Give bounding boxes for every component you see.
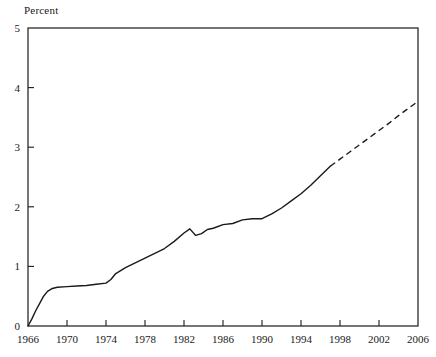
- y-tick-label: 4: [15, 82, 21, 94]
- x-tick-label: 1990: [251, 333, 274, 345]
- chart-page: Percent 012345 1966197019741978198219861…: [0, 0, 436, 357]
- y-tick-label: 1: [15, 260, 21, 272]
- series-group: [28, 101, 418, 326]
- x-tick-label: 1994: [290, 333, 313, 345]
- x-tick-label: 1970: [56, 333, 79, 345]
- x-tick-label: 1998: [329, 333, 352, 345]
- y-tick-label: 0: [15, 320, 21, 332]
- x-tick-label: 2006: [407, 333, 430, 345]
- line-chart: 012345 196619701974197819821986199019941…: [0, 0, 436, 357]
- x-axis-ticks: 1966197019741978198219861990199419982002…: [17, 320, 430, 345]
- y-tick-label: 3: [15, 141, 21, 153]
- x-tick-label: 1978: [134, 333, 157, 345]
- series-line-actual: [28, 166, 330, 326]
- x-tick-label: 1974: [95, 333, 118, 345]
- y-axis-ticks: 012345: [15, 22, 35, 332]
- x-tick-label: 2002: [368, 333, 390, 345]
- y-tick-label: 2: [15, 201, 21, 213]
- series-line-projected: [330, 101, 418, 166]
- x-tick-label: 1966: [17, 333, 40, 345]
- x-tick-label: 1982: [173, 333, 195, 345]
- y-tick-label: 5: [15, 22, 21, 34]
- x-tick-label: 1986: [212, 333, 235, 345]
- plot-frame: [28, 28, 418, 326]
